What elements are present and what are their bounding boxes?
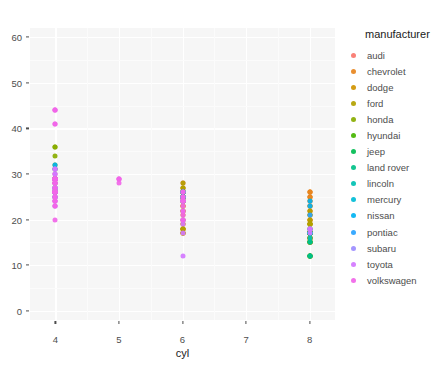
x-tick-label: 6: [180, 334, 185, 345]
data-point: [180, 222, 185, 227]
legend-items: audichevroletdodgefordhondahyundaijeepla…: [345, 47, 446, 288]
data-point: [180, 213, 185, 218]
y-tick-label: 10: [11, 260, 22, 271]
y-tick-mark: [26, 310, 29, 311]
legend-color-dot: [351, 213, 356, 218]
x-tick-mark: [118, 321, 119, 324]
data-point: [53, 167, 58, 172]
legend-item-label: jeep: [367, 146, 385, 157]
legend-item-volkswagen[interactable]: volkswagen: [345, 272, 446, 288]
gridline-vertical-minor: [278, 28, 279, 320]
gridline-horizontal-minor: [30, 288, 335, 289]
legend-item-label: nissan: [367, 210, 394, 221]
x-tick-label: 4: [53, 334, 58, 345]
y-tick-label: 0: [17, 305, 22, 316]
legend-color-dot: [351, 262, 356, 267]
chart-root: 0102030405060 45678 cyl manufacturer aud…: [0, 0, 446, 368]
gridline-horizontal: [30, 128, 335, 129]
gridline-horizontal: [30, 265, 335, 266]
data-point: [307, 231, 312, 236]
legend-item-hyundai[interactable]: hyundai: [345, 127, 446, 143]
legend-key-icon: [345, 224, 361, 240]
y-tick-mark: [26, 128, 29, 129]
legend-key-icon: [345, 192, 361, 208]
x-tick-mark: [309, 321, 310, 324]
gridline-vertical-minor: [214, 28, 215, 320]
legend-key-icon: [345, 176, 361, 192]
legend-item-ford[interactable]: ford: [345, 95, 446, 111]
y-tick-label: 60: [11, 32, 22, 43]
legend-color-dot: [351, 230, 356, 235]
legend-item-chevrolet[interactable]: chevrolet: [345, 63, 446, 79]
data-point: [180, 231, 185, 236]
legend-item-label: chevrolet: [367, 66, 406, 77]
legend-item-label: pontiac: [367, 227, 398, 238]
legend-color-dot: [351, 85, 356, 90]
legend-item-label: ford: [367, 98, 383, 109]
y-tick-mark: [26, 265, 29, 266]
legend-color-dot: [351, 117, 356, 122]
legend-key-icon: [345, 79, 361, 95]
legend-color-dot: [351, 181, 356, 186]
legend-color-dot: [351, 197, 356, 202]
data-point: [53, 203, 58, 208]
data-point: [307, 240, 312, 245]
legend-item-lincoln[interactable]: lincoln: [345, 176, 446, 192]
legend-item-label: toyota: [367, 259, 393, 270]
legend-item-label: land rover: [367, 162, 409, 173]
legend-key-icon: [345, 128, 361, 144]
y-tick-mark: [26, 219, 29, 220]
y-tick-label: 50: [11, 77, 22, 88]
legend-item-toyota[interactable]: toyota: [345, 256, 446, 272]
data-point: [53, 217, 58, 222]
legend-key-icon: [345, 47, 361, 63]
legend-color-dot: [351, 69, 356, 74]
plot-panel: [30, 28, 335, 320]
legend-item-label: volkswagen: [367, 275, 417, 286]
legend-color-dot: [351, 165, 356, 170]
gridline-horizontal: [30, 37, 335, 38]
y-tick-label: 40: [11, 123, 22, 134]
legend-item-label: lincoln: [367, 178, 394, 189]
legend-item-pontiac[interactable]: pontiac: [345, 224, 446, 240]
legend-item-land-rover[interactable]: land rover: [345, 160, 446, 176]
legend-color-dot: [351, 53, 356, 58]
legend-item-label: honda: [367, 114, 393, 125]
legend-item-honda[interactable]: honda: [345, 111, 446, 127]
legend-color-dot: [351, 133, 356, 138]
legend-color-dot: [351, 278, 356, 283]
gridline-horizontal-minor: [30, 151, 335, 152]
legend: manufacturer audichevroletdodgefordhonda…: [345, 28, 446, 288]
legend-item-jeep[interactable]: jeep: [345, 144, 446, 160]
legend-item-mercury[interactable]: mercury: [345, 192, 446, 208]
legend-key-icon: [345, 111, 361, 127]
x-tick-label: 8: [307, 334, 312, 345]
data-point: [116, 181, 121, 186]
x-axis-title: cyl: [30, 347, 335, 359]
legend-item-label: dodge: [367, 82, 393, 93]
gridline-vertical-minor: [87, 28, 88, 320]
gridline-horizontal: [30, 311, 335, 312]
x-tick-label: 5: [116, 334, 121, 345]
data-point: [53, 121, 58, 126]
data-point: [307, 254, 312, 259]
y-tick-mark: [26, 173, 29, 174]
legend-title: manufacturer: [365, 28, 446, 40]
legend-key-icon: [345, 144, 361, 160]
legend-color-dot: [351, 246, 356, 251]
legend-item-nissan[interactable]: nissan: [345, 208, 446, 224]
data-point: [307, 226, 312, 231]
legend-item-audi[interactable]: audi: [345, 47, 446, 63]
data-point: [307, 235, 312, 240]
legend-key-icon: [345, 208, 361, 224]
legend-item-dodge[interactable]: dodge: [345, 79, 446, 95]
legend-item-label: subaru: [367, 243, 396, 254]
legend-key-icon: [345, 63, 361, 79]
legend-item-subaru[interactable]: subaru: [345, 240, 446, 256]
y-tick-mark: [26, 82, 29, 83]
legend-item-label: audi: [367, 50, 385, 61]
data-point: [180, 217, 185, 222]
gridline-horizontal: [30, 174, 335, 175]
data-point: [53, 190, 58, 195]
gridline-horizontal-minor: [30, 242, 335, 243]
